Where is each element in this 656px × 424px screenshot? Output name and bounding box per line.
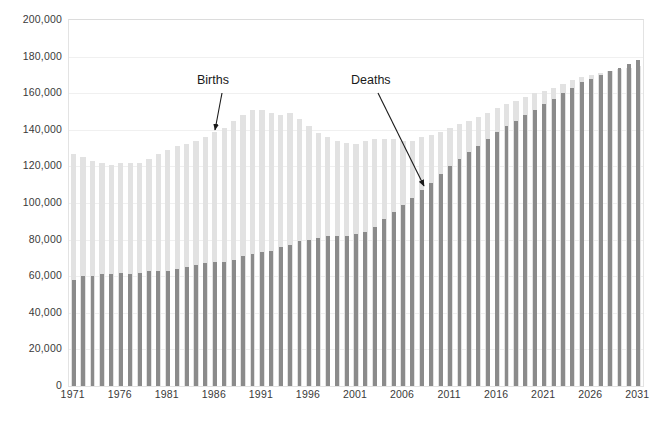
bar-group[interactable] [485,20,490,386]
bar-deaths[interactable] [448,166,452,386]
bar-deaths[interactable] [552,99,556,386]
bar-deaths[interactable] [91,276,95,386]
bar-group[interactable] [570,20,575,386]
bar-group[interactable] [175,20,180,386]
bar-deaths[interactable] [128,274,132,386]
bar-group[interactable] [128,20,133,386]
bar-group[interactable] [109,20,114,386]
bar-group[interactable] [589,20,594,386]
bar-deaths[interactable] [335,236,339,386]
bar-group[interactable] [560,20,565,386]
bar-group[interactable] [90,20,95,386]
bar-deaths[interactable] [166,271,170,386]
bar-deaths[interactable] [618,68,622,386]
bar-deaths[interactable] [420,190,424,386]
bar-group[interactable] [607,20,612,386]
bar-deaths[interactable] [533,110,537,386]
bar-deaths[interactable] [156,271,160,386]
bar-group[interactable] [523,20,528,386]
bar-group[interactable] [335,20,340,386]
bar-group[interactable] [146,20,151,386]
bar-deaths[interactable] [627,64,631,386]
bar-deaths[interactable] [203,263,207,386]
bar-deaths[interactable] [561,93,565,386]
bar-group[interactable] [184,20,189,386]
bar-group[interactable] [278,20,283,386]
bar-deaths[interactable] [279,247,283,386]
bar-deaths[interactable] [298,241,302,386]
bar-deaths[interactable] [213,262,217,386]
bar-group[interactable] [504,20,509,386]
bar-group[interactable] [438,20,443,386]
bar-deaths[interactable] [523,115,527,386]
bar-group[interactable] [391,20,396,386]
bar-group[interactable] [532,20,537,386]
bar-group[interactable] [466,20,471,386]
bar-deaths[interactable] [119,273,123,386]
bar-group[interactable] [137,20,142,386]
bar-group[interactable] [617,20,622,386]
bar-deaths[interactable] [363,232,367,386]
bar-deaths[interactable] [486,139,490,386]
bar-group[interactable] [240,20,245,386]
bar-deaths[interactable] [147,271,151,386]
bar-group[interactable] [636,20,641,386]
bar-deaths[interactable] [439,174,443,386]
bar-group[interactable] [410,20,415,386]
bar-group[interactable] [476,20,481,386]
bar-deaths[interactable] [599,75,603,386]
bar-deaths[interactable] [251,254,255,386]
bar-deaths[interactable] [514,121,518,386]
bar-group[interactable] [80,20,85,386]
bar-group[interactable] [269,20,274,386]
bar-deaths[interactable] [505,126,509,386]
bar-deaths[interactable] [269,251,273,386]
bar-group[interactable] [457,20,462,386]
bar-deaths[interactable] [467,152,471,386]
bar-deaths[interactable] [241,256,245,386]
bar-group[interactable] [579,20,584,386]
bar-group[interactable] [513,20,518,386]
bar-group[interactable] [495,20,500,386]
bar-group[interactable] [156,20,161,386]
bar-deaths[interactable] [392,212,396,386]
bar-deaths[interactable] [354,234,358,386]
bar-deaths[interactable] [410,198,414,386]
bar-deaths[interactable] [495,132,499,386]
bar-deaths[interactable] [260,252,264,386]
bar-deaths[interactable] [100,274,104,386]
bar-deaths[interactable] [429,183,433,386]
bar-deaths[interactable] [222,262,226,386]
bar-deaths[interactable] [316,238,320,386]
bar-group[interactable] [259,20,264,386]
bar-deaths[interactable] [570,88,574,386]
bar-deaths[interactable] [194,265,198,386]
bar-group[interactable] [429,20,434,386]
bar-deaths[interactable] [382,219,386,386]
bar-group[interactable] [165,20,170,386]
bar-group[interactable] [250,20,255,386]
bar-deaths[interactable] [373,227,377,386]
bar-deaths[interactable] [288,245,292,386]
bar-deaths[interactable] [81,276,85,386]
bar-deaths[interactable] [542,104,546,386]
bar-group[interactable] [231,20,236,386]
bar-deaths[interactable] [109,274,113,386]
bar-group[interactable] [542,20,547,386]
bar-deaths[interactable] [636,60,640,386]
bar-group[interactable] [626,20,631,386]
bar-group[interactable] [297,20,302,386]
bar-group[interactable] [344,20,349,386]
bar-deaths[interactable] [401,205,405,386]
bar-deaths[interactable] [458,159,462,386]
bar-deaths[interactable] [476,146,480,386]
bar-deaths[interactable] [580,82,584,386]
bar-group[interactable] [400,20,405,386]
bar-group[interactable] [325,20,330,386]
bar-deaths[interactable] [589,79,593,386]
bar-group[interactable] [71,20,76,386]
bar-group[interactable] [306,20,311,386]
bar-deaths[interactable] [326,236,330,386]
bar-group[interactable] [447,20,452,386]
bar-group[interactable] [118,20,123,386]
